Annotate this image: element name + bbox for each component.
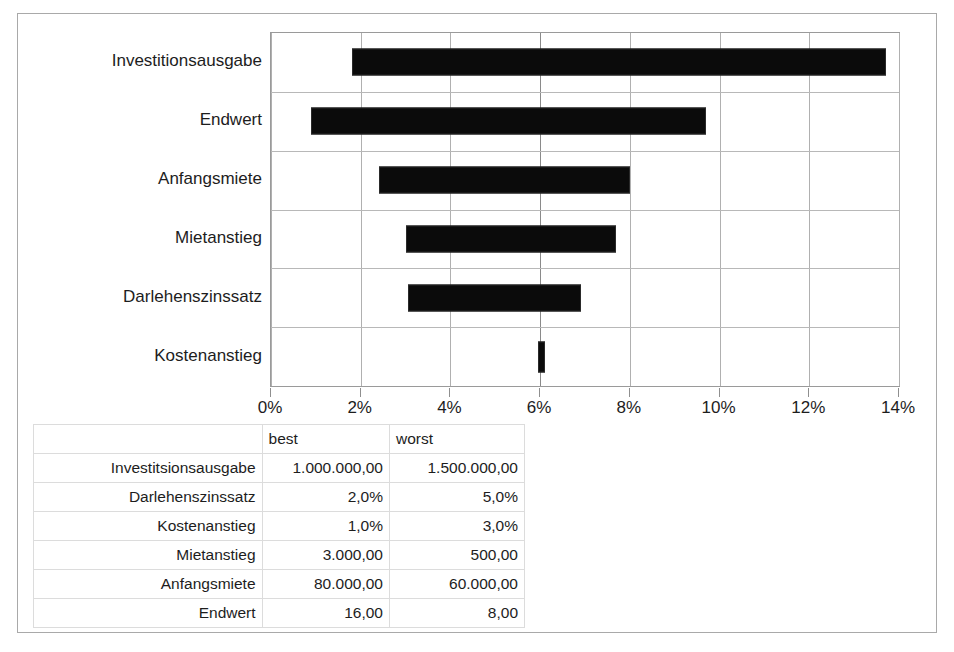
- category-label-mietanstieg: Mietanstieg: [40, 228, 262, 248]
- value-axis-labels: 0%2%4%6%8%10%12%14%: [270, 398, 900, 422]
- category-label-kostenanstieg: Kostenanstieg: [40, 346, 262, 366]
- x-tick-label: 4%: [437, 398, 462, 418]
- row-best-value: 1.000.000,00: [262, 454, 389, 483]
- table-row: Darlehenszinssatz2,0%5,0%: [34, 483, 525, 512]
- row-best-value: 2,0%: [262, 483, 389, 512]
- bar-anfangsmiete: [379, 167, 630, 194]
- row-label: Anfangsmiete: [34, 570, 263, 599]
- table-row: Endwert16,008,00: [34, 599, 525, 628]
- gridline-14pct: [899, 33, 900, 386]
- x-tick: [719, 388, 720, 397]
- bar-row: [271, 151, 899, 210]
- category-label-darlehenszinssatz: Darlehenszinssatz: [40, 287, 262, 307]
- bar-investitionsausgabe: [352, 49, 886, 76]
- x-tick-label: 12%: [791, 398, 825, 418]
- assumptions-table: best worst Investitsionsausgabe1.000.000…: [33, 424, 525, 628]
- bar-mietanstieg: [406, 225, 617, 252]
- plot-area: [270, 32, 900, 387]
- table-col-header-worst: worst: [389, 425, 524, 454]
- category-axis-labels: InvestitionsausgabeEndwertAnfangsmieteMi…: [40, 32, 262, 387]
- row-worst-value: 1.500.000,00: [389, 454, 524, 483]
- x-tick-label: 6%: [527, 398, 552, 418]
- table-row: Kostenanstieg1,0%3,0%: [34, 512, 525, 541]
- bar-endwert: [311, 108, 706, 135]
- row-worst-value: 8,00: [389, 599, 524, 628]
- row-worst-value: 5,0%: [389, 483, 524, 512]
- x-tick-label: 2%: [347, 398, 372, 418]
- table-header-row: best worst: [34, 425, 525, 454]
- row-worst-value: 60.000,00: [389, 570, 524, 599]
- table-header: best worst: [34, 425, 525, 454]
- row-label: Endwert: [34, 599, 263, 628]
- table-row: Investitsionsausgabe1.000.000,001.500.00…: [34, 454, 525, 483]
- row-label: Kostenanstieg: [34, 512, 263, 541]
- x-tick: [270, 388, 271, 397]
- x-tick-label: 14%: [881, 398, 915, 418]
- category-label-investitionsausgabe: Investitionsausgabe: [40, 51, 262, 71]
- bar-kostenanstieg: [538, 341, 545, 372]
- row-best-value: 16,00: [262, 599, 389, 628]
- x-tick-label: 10%: [702, 398, 736, 418]
- category-label-anfangsmiete: Anfangsmiete: [40, 169, 262, 189]
- bar-darlehenszinssatz: [408, 284, 581, 311]
- x-tick: [629, 388, 630, 397]
- table-row: Anfangsmiete80.000,0060.000,00: [34, 570, 525, 599]
- x-tick: [808, 388, 809, 397]
- row-worst-value: 3,0%: [389, 512, 524, 541]
- tornado-chart-page: InvestitionsausgabeEndwertAnfangsmieteMi…: [0, 0, 954, 652]
- bar-row: [271, 92, 899, 151]
- table-col-header-best: best: [262, 425, 389, 454]
- x-tick: [449, 388, 450, 397]
- row-best-value: 1,0%: [262, 512, 389, 541]
- table-row: Mietanstieg3.000,00500,00: [34, 541, 525, 570]
- row-label: Mietanstieg: [34, 541, 263, 570]
- table-body: Investitsionsausgabe1.000.000,001.500.00…: [34, 454, 525, 628]
- bar-row: [271, 210, 899, 269]
- category-label-endwert: Endwert: [40, 110, 262, 130]
- bar-row: [271, 327, 899, 386]
- row-best-value: 3.000,00: [262, 541, 389, 570]
- x-tick-label: 0%: [258, 398, 283, 418]
- table-col-header-name: [34, 425, 263, 454]
- row-label: Investitsionsausgabe: [34, 454, 263, 483]
- row-worst-value: 500,00: [389, 541, 524, 570]
- bar-row: [271, 268, 899, 327]
- x-tick: [539, 388, 540, 397]
- x-tick: [898, 388, 899, 397]
- row-label: Darlehenszinssatz: [34, 483, 263, 512]
- x-tick-label: 8%: [617, 398, 642, 418]
- x-tick: [360, 388, 361, 397]
- row-best-value: 80.000,00: [262, 570, 389, 599]
- bar-row: [271, 33, 899, 92]
